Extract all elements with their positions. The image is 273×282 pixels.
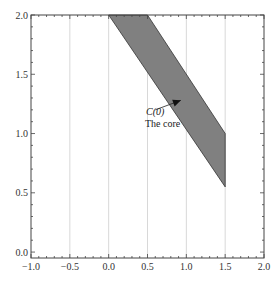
y-axis-tick-labels: 0.00.51.01.52.0 — [16, 10, 29, 258]
x-tick-label: 2.0 — [258, 261, 271, 272]
x-tick-label: −0.5 — [61, 261, 79, 272]
y-tick-label: 2.0 — [16, 10, 29, 21]
x-tick-label: 0.0 — [102, 261, 115, 272]
y-tick-label: 0.5 — [16, 187, 29, 198]
y-tick-label: 0.0 — [16, 247, 29, 258]
core-region — [109, 15, 226, 187]
x-tick-label: 1.5 — [219, 261, 232, 272]
core-polygon — [109, 15, 226, 187]
x-tick-label: 1.0 — [180, 261, 193, 272]
annotation-label-c0: C(0) — [146, 106, 165, 118]
x-tick-label: 0.5 — [141, 261, 154, 272]
y-tick-label: 1.0 — [16, 128, 29, 139]
x-axis-tick-labels: −1.0−0.50.00.51.01.52.0 — [22, 261, 270, 272]
core-annotation: C(0) The core — [145, 100, 181, 129]
x-tick-label: −1.0 — [22, 261, 40, 272]
y-tick-label: 1.5 — [16, 69, 29, 80]
annotation-label-core: The core — [145, 118, 181, 129]
chart-figure: −1.0−0.50.00.51.01.52.0 0.00.51.01.52.0 … — [0, 0, 273, 282]
